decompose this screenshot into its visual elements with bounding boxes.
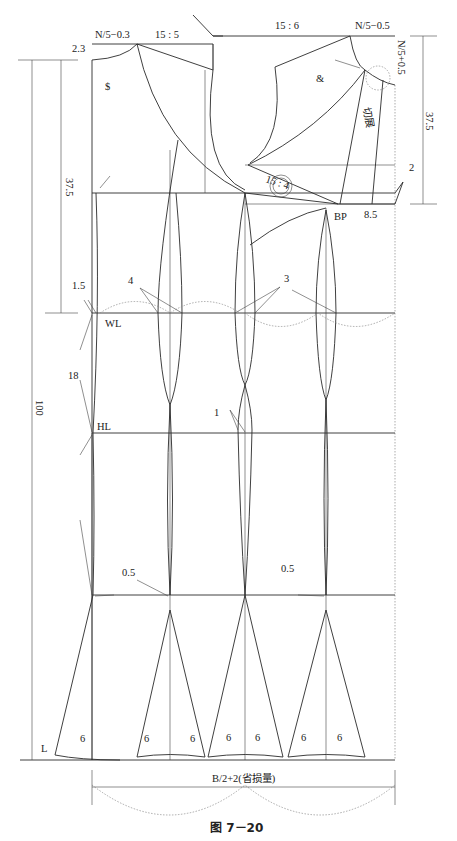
label-neck-width-front: N/5−0.5: [355, 20, 390, 31]
label-dart-c: 1: [214, 407, 219, 418]
label-waist-to-hip: 18: [68, 370, 79, 381]
label-hem-flare: 6: [255, 732, 260, 743]
label-flare-right: 0.5: [281, 563, 294, 574]
pattern-diagram: N/5−0.3 15 : 5 2.3 15 : 6 N/5−0.5 N/5+0.…: [0, 0, 457, 841]
darts: [92, 140, 336, 760]
label-total-length: 100: [34, 400, 45, 416]
label-front-waist-length: 37.5: [424, 112, 435, 130]
measure-arcs: [92, 302, 395, 816]
label-hem-flare: 6: [301, 732, 306, 743]
label-neck-depth-front: N/5+0.5: [396, 40, 407, 75]
dimension-lines: [18, 36, 437, 805]
label-dart-ratio: 15 : 4: [264, 173, 291, 191]
skirt-flares: [55, 595, 365, 760]
label-hem-flare: 6: [337, 732, 342, 743]
label-back-waist-length: 37.5: [64, 178, 75, 196]
label-shoulder-slope-front: 15 : 6: [275, 20, 299, 31]
label-shoulder-slope-back: 15 : 5: [155, 29, 179, 40]
label-front-neck-curve: &: [316, 73, 324, 84]
label-hem-flare: 6: [144, 733, 149, 744]
label-dart-b: 3: [284, 273, 289, 284]
label-bp: BP: [334, 211, 347, 222]
label-hem-line: L: [41, 743, 47, 754]
label-hem-flare: 6: [190, 733, 195, 744]
back-bodice: [92, 44, 245, 193]
label-dart-a: 4: [128, 275, 134, 286]
label-cut-open: 切展: [361, 106, 375, 129]
label-bp-offset: 8.5: [364, 209, 377, 220]
label-neck-width-back: N/5−0.3: [95, 29, 130, 40]
label-hip-line: HL: [97, 421, 111, 432]
figure-caption: 图 7－20: [210, 821, 263, 835]
label-waist-offset: 1.5: [72, 280, 85, 291]
label-back-neck-rise: 2.3: [72, 43, 85, 54]
label-hem-flare: 6: [80, 733, 85, 744]
label-back-neck-curve: $: [105, 81, 110, 92]
label-width: B/2+2(省损量): [212, 772, 276, 785]
label-front-drop: 2: [409, 162, 414, 173]
labels: N/5−0.3 15 : 5 2.3 15 : 6 N/5−0.5 N/5+0.…: [34, 20, 435, 835]
label-hem-flare: 6: [226, 732, 231, 743]
label-waist-line: WL: [105, 318, 121, 329]
label-flare-left: 0.5: [122, 567, 135, 578]
frame-lines: [20, 36, 395, 760]
